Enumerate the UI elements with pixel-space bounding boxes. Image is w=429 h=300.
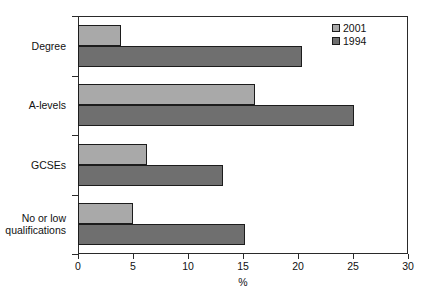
bar-chart: DegreeA-levelsGCSEsNo or low qualificati… bbox=[0, 0, 429, 300]
x-axis-title-text: % bbox=[238, 276, 247, 288]
bar-group bbox=[78, 203, 408, 245]
x-axis-tick-label-30: 30 bbox=[402, 260, 414, 272]
x-axis-tick-30 bbox=[408, 254, 409, 259]
bar-group bbox=[78, 84, 408, 126]
y-axis-category-labels: DegreeA-levelsGCSEsNo or low qualificati… bbox=[0, 16, 74, 254]
y-axis-tick-3 bbox=[72, 195, 78, 196]
y-axis-label-4: No or low qualifications bbox=[5, 212, 66, 236]
x-axis-title: % bbox=[0, 276, 429, 288]
legend-label-1994: 1994 bbox=[343, 35, 366, 47]
bar-1994-3[interactable] bbox=[78, 165, 223, 186]
x-axis-tick-25 bbox=[353, 254, 354, 259]
x-axis-tick-0 bbox=[78, 254, 79, 259]
y-axis-tick-2 bbox=[72, 135, 78, 136]
legend-item-2001[interactable]: 2001 bbox=[332, 22, 366, 34]
y-axis-label-1: Degree bbox=[32, 40, 66, 52]
legend-swatch-2001-icon bbox=[332, 24, 340, 32]
x-axis-tick-label-0: 0 bbox=[75, 260, 81, 272]
bar-1994-2[interactable] bbox=[78, 105, 354, 126]
legend-item-1994[interactable]: 1994 bbox=[332, 35, 366, 47]
chart-legend: 2001 1994 bbox=[332, 22, 366, 47]
x-axis-tick-label-25: 25 bbox=[347, 260, 359, 272]
x-axis-tick-15 bbox=[243, 254, 244, 259]
x-axis-tick-label-15: 15 bbox=[237, 260, 249, 272]
y-axis-label-3: GCSEs bbox=[31, 159, 66, 171]
bar-2001-1[interactable] bbox=[78, 25, 121, 46]
legend-label-2001: 2001 bbox=[343, 22, 366, 34]
x-axis-tick-label-10: 10 bbox=[182, 260, 194, 272]
bar-2001-4[interactable] bbox=[78, 203, 133, 224]
x-axis-tick-label-20: 20 bbox=[292, 260, 304, 272]
y-axis-label-2: A-levels bbox=[29, 99, 66, 111]
legend-swatch-1994-icon bbox=[332, 37, 340, 45]
bar-1994-1[interactable] bbox=[78, 46, 302, 67]
x-axis-tick-label-5: 5 bbox=[130, 260, 136, 272]
bar-2001-2[interactable] bbox=[78, 84, 255, 105]
y-axis-tick-0 bbox=[72, 16, 78, 17]
y-axis-tick-1 bbox=[72, 76, 78, 77]
bar-2001-3[interactable] bbox=[78, 144, 147, 165]
bar-group bbox=[78, 144, 408, 186]
x-axis-tick-20 bbox=[298, 254, 299, 259]
x-axis-tick-5 bbox=[133, 254, 134, 259]
x-axis-tick-10 bbox=[188, 254, 189, 259]
bars-layer bbox=[78, 16, 408, 254]
bar-1994-4[interactable] bbox=[78, 224, 245, 245]
